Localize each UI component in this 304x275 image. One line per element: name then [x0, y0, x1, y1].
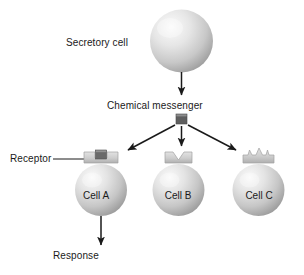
cell-b-receptor [165, 152, 192, 163]
cell-a-label: Cell A [66, 190, 126, 201]
cell-b-label: Cell B [148, 190, 208, 201]
diagram-canvas: Secretory cell Chemical messenger Recept… [0, 0, 304, 275]
secretory-cell [150, 10, 213, 73]
chemical-messenger-label: Chemical messenger [107, 100, 203, 111]
cell-a [75, 150, 127, 216]
cell-c-receptor [243, 148, 274, 163]
messenger-to-cell-a-arrow [128, 125, 175, 150]
cell-b [153, 152, 205, 216]
cell-c [233, 148, 285, 216]
secretory-cell-label: Secretory cell [66, 37, 128, 48]
messenger-to-cell-c-arrow [188, 125, 236, 150]
receptor-label: Receptor [10, 153, 51, 164]
cell-c-label: Cell C [229, 190, 289, 201]
diagram-graphics [0, 0, 304, 275]
bound-messenger-icon [96, 150, 107, 159]
chemical-messenger-icon [176, 114, 187, 124]
response-label: Response [53, 250, 99, 261]
